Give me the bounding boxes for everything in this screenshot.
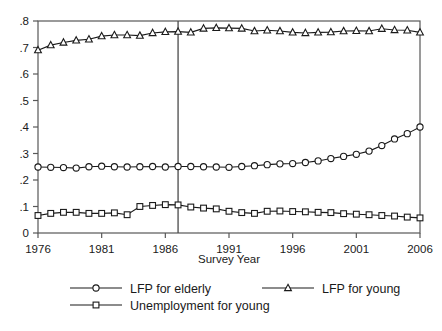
square-marker <box>150 203 156 209</box>
legend-label: Unemployment for young <box>130 299 270 313</box>
circle-marker <box>239 163 245 169</box>
x-tick-label: 2006 <box>407 243 433 255</box>
square-marker <box>112 210 118 216</box>
plot-frame <box>38 21 420 233</box>
circle-marker <box>264 162 270 168</box>
square-marker <box>226 208 232 214</box>
square-marker <box>35 213 41 219</box>
figure-container: 1976198119861991199620012006 0.1.2.3.4.5… <box>0 0 442 331</box>
circle-marker <box>150 163 156 169</box>
series-1 <box>35 124 423 171</box>
square-marker <box>290 209 296 215</box>
circle-marker <box>315 158 321 164</box>
circle-marker <box>226 164 232 170</box>
chart-svg: 1976198119861991199620012006 0.1.2.3.4.5… <box>0 0 442 331</box>
series-3 <box>35 202 423 221</box>
square-marker <box>417 215 423 221</box>
square-marker <box>239 210 245 216</box>
circle-marker <box>353 151 359 157</box>
circle-marker <box>86 164 92 170</box>
circle-marker <box>60 164 66 170</box>
circle-marker <box>404 131 410 137</box>
square-marker <box>201 205 207 211</box>
square-marker <box>188 204 194 210</box>
circle-marker <box>188 163 194 169</box>
circle-marker <box>162 164 168 170</box>
legend-label: LFP for young <box>322 282 400 296</box>
y-tick-label: .1 <box>19 201 29 213</box>
circle-marker <box>137 164 143 170</box>
legend-item-1[interactable]: LFP for elderly <box>70 282 212 296</box>
x-tick-label: 2001 <box>344 243 370 255</box>
square-marker <box>73 209 79 215</box>
square-marker <box>303 209 309 215</box>
triangle-marker <box>175 28 182 34</box>
triangle-marker <box>378 25 385 31</box>
circle-marker <box>417 124 423 130</box>
square-marker <box>315 209 321 215</box>
square-marker <box>86 210 92 216</box>
square-marker <box>277 208 283 214</box>
legend-item-2[interactable]: LFP for young <box>262 282 400 296</box>
circle-marker <box>391 136 397 142</box>
square-marker <box>379 213 385 219</box>
chart-legend: LFP for elderlyLFP for youngUnemployment… <box>70 282 400 313</box>
y-tick-label: .8 <box>19 15 29 27</box>
legend-item-3[interactable]: Unemployment for young <box>70 299 270 313</box>
square-marker <box>61 209 67 215</box>
circle-marker <box>111 164 117 170</box>
x-tick-label: 1986 <box>153 243 179 255</box>
x-axis-ticks <box>38 233 420 238</box>
square-marker <box>162 202 168 208</box>
circle-marker <box>213 164 219 170</box>
square-marker <box>392 213 398 219</box>
square-marker <box>252 210 258 216</box>
square-marker <box>264 208 270 214</box>
square-marker <box>124 212 130 218</box>
square-marker <box>93 302 99 308</box>
circle-marker <box>175 163 181 169</box>
circle-marker <box>48 164 54 170</box>
square-marker <box>137 204 143 210</box>
circle-marker <box>93 285 99 291</box>
circle-marker <box>341 153 347 159</box>
circle-marker <box>99 163 105 169</box>
x-axis-title: Survey Year <box>198 253 260 265</box>
circle-marker <box>277 161 283 167</box>
y-tick-label: 0 <box>23 227 29 239</box>
circle-marker <box>73 165 79 171</box>
circle-marker <box>124 164 130 170</box>
circle-marker <box>251 163 257 169</box>
circle-marker <box>290 160 296 166</box>
y-axis-tick-labels: 0.1.2.3.4.5.6.7.8 <box>19 15 29 239</box>
square-marker <box>99 210 105 216</box>
x-tick-label: 1976 <box>25 243 51 255</box>
square-marker <box>48 210 54 216</box>
series-layer <box>35 24 424 221</box>
square-marker <box>328 210 334 216</box>
triangle-marker <box>264 27 271 33</box>
square-marker <box>366 212 372 218</box>
x-tick-label: 1981 <box>89 243 115 255</box>
y-tick-label: .6 <box>19 68 29 80</box>
circle-marker <box>302 159 308 165</box>
circle-marker <box>35 164 41 170</box>
series-2 <box>35 24 424 53</box>
circle-marker <box>200 164 206 170</box>
triangle-marker <box>353 27 360 33</box>
circle-marker <box>366 148 372 154</box>
y-tick-label: .7 <box>19 42 29 54</box>
circle-marker <box>328 155 334 161</box>
series-line <box>38 127 420 168</box>
square-marker <box>341 211 347 217</box>
square-marker <box>175 202 181 208</box>
y-tick-label: .5 <box>19 95 29 107</box>
y-tick-label: .4 <box>19 121 29 133</box>
y-tick-label: .3 <box>19 148 29 160</box>
y-tick-label: .2 <box>19 174 29 186</box>
square-marker <box>353 211 359 217</box>
x-tick-label: 1996 <box>280 243 306 255</box>
legend-label: LFP for elderly <box>130 282 212 296</box>
square-marker <box>404 214 410 220</box>
circle-marker <box>379 142 385 148</box>
